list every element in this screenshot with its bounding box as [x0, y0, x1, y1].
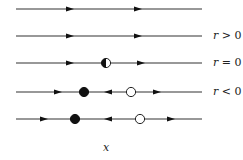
unstable-fixed-point-icon — [126, 87, 135, 96]
arrow-left-icon — [104, 116, 112, 121]
arrow-right-icon — [40, 116, 48, 121]
arrow-right-icon — [153, 89, 161, 94]
label-r-positive: r > 0 — [213, 29, 241, 42]
arrow-right-icon — [54, 89, 62, 94]
arrow-right-icon — [167, 116, 175, 121]
arrow-right-icon — [134, 33, 142, 38]
unstable-fixed-point-icon — [135, 114, 144, 123]
stable-fixed-point-icon — [70, 114, 79, 123]
arrow-right-icon — [134, 6, 142, 11]
stable-fixed-point-icon — [79, 87, 88, 96]
arrow-right-icon — [66, 33, 74, 38]
phase-line-diagram — [0, 0, 243, 160]
label-r-zero: r = 0 — [213, 56, 241, 69]
label-r-negative: r < 0 — [213, 85, 241, 98]
arrow-right-icon — [66, 60, 74, 65]
x-axis-label: x — [103, 141, 109, 154]
arrow-right-icon — [137, 60, 145, 65]
arrow-left-icon — [104, 89, 112, 94]
arrow-right-icon — [66, 6, 74, 11]
